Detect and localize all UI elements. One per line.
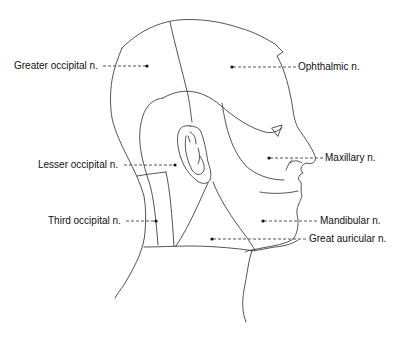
leader-great-auricular <box>210 237 308 240</box>
eye-notch <box>272 125 282 136</box>
label-greater-occipital: Greater occipital n. <box>14 60 98 72</box>
leader-ophthalmic <box>230 65 296 68</box>
nostril <box>286 160 302 170</box>
leader-maxillary <box>267 156 323 159</box>
leader-third-occipital <box>126 219 158 222</box>
lesser-occipital-boundary <box>137 172 166 176</box>
head-outline <box>122 19 315 252</box>
auriculotemporal-boundary <box>163 91 282 132</box>
third-occipital-boundary <box>166 172 174 246</box>
label-third-occipital: Third occipital n. <box>48 215 121 227</box>
temporal-boundary <box>140 98 163 245</box>
label-great-auricular: Great auricular n. <box>309 233 386 245</box>
mandibular-boundary <box>213 182 255 250</box>
label-maxillary: Maxillary n. <box>325 152 376 164</box>
label-mandibular: Mandibular n. <box>320 215 381 227</box>
leader-mandibular <box>261 219 319 222</box>
leader-greater-occipital <box>103 64 149 67</box>
great-auricular-boundary <box>176 183 208 246</box>
neck-front-outline <box>243 250 252 322</box>
ear-outer <box>178 126 211 184</box>
ear-inner <box>185 132 204 175</box>
back-of-head-outline <box>111 48 146 298</box>
jaw-line <box>260 191 298 193</box>
label-lesser-occipital: Lesser occipital n. <box>38 159 118 171</box>
occipital-boundary-line <box>170 22 192 122</box>
label-ophthalmic: Ophthalmic n. <box>298 61 360 73</box>
